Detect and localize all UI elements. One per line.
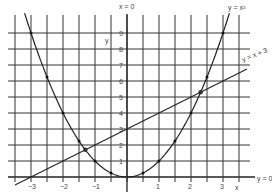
plotted-curves [15, 13, 247, 185]
tick-labels: −3−2−1123123456789 [28, 30, 224, 191]
intersection-point-marker [83, 148, 87, 152]
parabola-point-marker [62, 112, 65, 115]
intersection-point-marker [198, 90, 202, 94]
x-tick-label: −1 [92, 183, 100, 190]
graph-canvas: −3−2−1123123456789 x = 0 y = x² y = x + … [0, 0, 272, 192]
vertical-axis-equation-label: x = 0 [119, 3, 134, 10]
y-tick-label: 9 [119, 30, 123, 37]
horizontal-axis-equation-label: y = 0 [257, 175, 272, 183]
y-tick-label: 2 [119, 142, 123, 149]
x-tick-label: −3 [28, 183, 36, 190]
x-tick-label: 2 [188, 183, 192, 190]
parabola-point-marker [46, 76, 49, 79]
parabola-point-marker [206, 76, 209, 79]
y-tick-label: 5 [119, 94, 123, 101]
y-tick-label: 7 [119, 62, 123, 69]
x-tick-label: 1 [156, 183, 160, 190]
parabola-point-marker [190, 112, 193, 115]
parabola-point-marker [174, 140, 177, 143]
parabola-point-marker [30, 32, 33, 35]
grid-lines [8, 15, 250, 182]
x-tick-label: 3 [220, 183, 224, 190]
y-axis-name-label: y [105, 37, 109, 45]
parabola-point-marker [158, 160, 161, 163]
axes [8, 14, 255, 192]
y-tick-label: 4 [119, 110, 123, 117]
parabola-point-marker [222, 32, 225, 35]
x-axis-name-label: x [235, 184, 239, 191]
parabola-equation-label: y = x² [228, 4, 246, 12]
x-tick-label: −2 [60, 183, 68, 190]
parabola-point-marker [78, 140, 81, 143]
y-tick-label: 1 [119, 158, 123, 165]
parabola-point-marker [142, 172, 145, 175]
parabola-point-marker [110, 172, 113, 175]
y-tick-label: 8 [119, 46, 123, 53]
line-y-equals-x-plus-3 [15, 69, 247, 185]
parabola-point-marker [94, 160, 97, 163]
y-tick-label: 6 [119, 78, 123, 85]
